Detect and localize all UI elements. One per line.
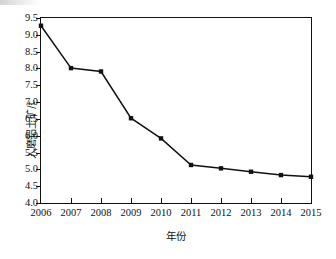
x-tick-label: 2014 [271,206,292,219]
y-tick-label: 4.5 [25,179,38,193]
x-tick-label: 2015 [301,206,322,219]
y-tick-label: 7.5 [25,78,38,92]
y-tick-label: 6.0 [25,129,38,143]
data-point-marker [309,175,313,179]
y-tick-label: 8.0 [25,61,38,75]
y-tick-label: 7.0 [25,95,38,109]
data-point-marker [279,173,283,177]
line-series [41,18,311,203]
y-tick-label: 6.5 [25,112,38,126]
plot-area: 4.04.55.05.56.06.57.07.58.08.59.09.5 200… [40,17,312,204]
x-tick-label: 2009 [121,206,142,219]
x-axis-title: 年份 [40,228,312,243]
x-tick-label: 2012 [211,206,232,219]
data-point-marker [189,163,193,167]
y-tick-label: 5.0 [25,162,38,176]
x-tick-label: 2013 [241,206,262,219]
series-line [41,26,311,177]
data-point-marker [129,116,133,120]
y-tick-label: 8.5 [25,45,38,59]
data-point-marker [39,24,43,28]
x-tick-label: 2010 [151,206,172,219]
data-point-marker [249,170,253,174]
y-tick-label: 9.5 [25,11,38,25]
y-tick-label: 5.5 [25,146,38,160]
x-tick-label: 2008 [91,206,112,219]
x-tick-label: 2011 [181,206,202,219]
data-point-marker [159,136,163,140]
x-tick-label: 2007 [61,206,82,219]
chart-figure: 入磨铝土矿/t 4.04.55.05.56.06.57.07.58.08.59.… [0,0,336,259]
x-tick-label: 2006 [31,206,52,219]
scan-artifact [0,0,40,5]
data-point-marker [69,66,73,70]
data-point-marker [219,166,223,170]
y-tick-label: 9.0 [25,28,38,42]
data-point-marker [99,69,103,73]
